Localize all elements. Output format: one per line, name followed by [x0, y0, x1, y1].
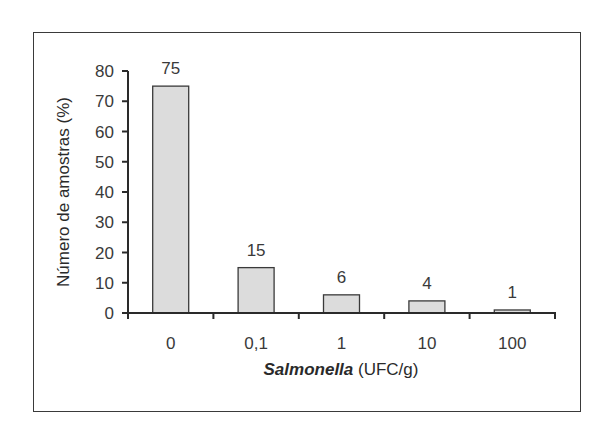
x-tick-label: 0,1 — [244, 334, 268, 353]
y-tick-label: 50 — [95, 153, 114, 172]
data-label: 1 — [508, 283, 517, 302]
bar-0 — [153, 86, 189, 313]
x-tick-label: 100 — [498, 334, 526, 353]
bars: 7515641 — [153, 59, 531, 313]
y-tick-label: 60 — [95, 123, 114, 142]
y-tick-label: 40 — [95, 183, 114, 202]
x-axis-title-italic: Salmonella — [264, 360, 354, 379]
y-axis-ticks: 01020304050607080 — [95, 62, 128, 323]
bar-1 — [324, 295, 360, 313]
x-tick-label: 0 — [166, 334, 175, 353]
x-axis-ticks: 00,1110100 — [128, 313, 555, 353]
bar-chart: 01020304050607080 7515641 00,1110100 Núm… — [0, 0, 610, 438]
x-tick-label: 10 — [417, 334, 436, 353]
y-tick-label: 30 — [95, 213, 114, 232]
bar-0,1 — [238, 268, 274, 313]
y-axis-title: Número de amostras (%) — [54, 97, 73, 287]
x-tick-label: 1 — [337, 334, 346, 353]
data-label: 6 — [337, 268, 346, 287]
data-label: 4 — [422, 274, 431, 293]
y-tick-label: 20 — [95, 244, 114, 263]
y-tick-label: 70 — [95, 92, 114, 111]
bar-10 — [409, 301, 445, 313]
x-axis-title: Salmonella (UFC/g) — [264, 360, 419, 379]
y-tick-label: 10 — [95, 274, 114, 293]
data-label: 15 — [247, 241, 266, 260]
x-axis-title-unit: (UFC/g) — [353, 360, 418, 379]
y-tick-label: 80 — [95, 62, 114, 81]
y-tick-label: 0 — [105, 304, 114, 323]
data-label: 75 — [161, 59, 180, 78]
